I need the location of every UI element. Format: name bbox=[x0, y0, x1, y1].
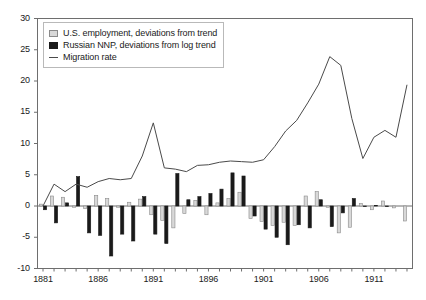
bar-russian-nnp bbox=[231, 173, 234, 206]
bar-us-employment bbox=[161, 206, 164, 220]
bar-us-employment bbox=[194, 200, 197, 206]
bar-us-employment bbox=[106, 199, 109, 207]
bar-us-employment bbox=[392, 206, 395, 208]
bar-russian-nnp bbox=[99, 206, 102, 235]
bar-us-employment bbox=[260, 206, 263, 222]
bar-us-employment bbox=[183, 206, 186, 214]
bar-us-employment bbox=[282, 206, 285, 222]
bar-us-employment bbox=[61, 197, 64, 206]
bar-russian-nnp bbox=[132, 206, 135, 241]
bar-russian-nnp bbox=[43, 206, 46, 210]
bar-us-employment bbox=[95, 195, 98, 206]
y-axis-tick-label: 30 bbox=[4, 13, 30, 23]
bar-russian-nnp bbox=[65, 203, 68, 206]
bar-us-employment bbox=[128, 202, 131, 206]
x-axis-tick-label: 1881 bbox=[26, 274, 60, 284]
x-axis-tick-label: 1896 bbox=[191, 274, 225, 284]
bar-russian-nnp bbox=[242, 176, 245, 206]
bar-russian-nnp bbox=[121, 206, 124, 234]
bar-russian-nnp bbox=[220, 189, 223, 206]
bar-russian-nnp bbox=[198, 197, 201, 206]
bar-us-employment bbox=[150, 206, 153, 215]
bar-russian-nnp bbox=[363, 206, 366, 207]
legend-swatch-migration-rate-icon bbox=[49, 53, 58, 62]
bar-us-employment bbox=[84, 206, 87, 209]
bar-russian-nnp bbox=[330, 206, 333, 227]
bar-russian-nnp bbox=[385, 206, 388, 207]
bar-us-employment bbox=[139, 199, 142, 206]
bar-us-employment bbox=[403, 206, 406, 221]
bar-us-employment bbox=[326, 206, 329, 207]
chart-container: U.S. employment, deviations from trend R… bbox=[0, 0, 426, 300]
bar-us-employment bbox=[271, 206, 274, 225]
bar-us-employment bbox=[216, 203, 219, 206]
legend-item-migration-rate: Migration rate bbox=[49, 51, 217, 63]
line-migration-rate bbox=[43, 57, 407, 206]
bar-russian-nnp bbox=[264, 206, 267, 229]
bar-us-employment bbox=[117, 206, 120, 207]
bar-russian-nnp bbox=[187, 200, 190, 206]
bar-russian-nnp bbox=[374, 205, 377, 206]
y-axis-tick-label: 15 bbox=[4, 106, 30, 116]
x-axis-tick-label: 1911 bbox=[357, 274, 391, 284]
legend-label-us-employment: U.S. employment, deviations from trend bbox=[63, 28, 217, 38]
legend-swatch-us-employment-icon bbox=[49, 30, 58, 37]
x-axis-tick-label: 1886 bbox=[81, 274, 115, 284]
bar-russian-nnp bbox=[341, 206, 344, 213]
bar-us-employment bbox=[315, 192, 318, 206]
bar-us-employment bbox=[73, 206, 76, 207]
bar-russian-nnp bbox=[253, 206, 256, 216]
bar-russian-nnp bbox=[286, 206, 289, 245]
y-axis-tick-label: 10 bbox=[4, 138, 30, 148]
y-axis-tick-label: 25 bbox=[4, 44, 30, 54]
bar-us-employment bbox=[50, 196, 53, 206]
legend-item-us-employment: U.S. employment, deviations from trend bbox=[49, 27, 217, 39]
y-axis-tick-label: -10 bbox=[4, 263, 30, 273]
bar-us-employment bbox=[205, 206, 208, 215]
x-axis-tick-label: 1901 bbox=[247, 274, 281, 284]
bar-us-employment bbox=[39, 204, 42, 206]
legend-item-russian-nnp: Russian NNP, deviations from log trend bbox=[49, 39, 217, 51]
bar-us-employment bbox=[370, 206, 373, 210]
bar-us-employment bbox=[249, 206, 252, 219]
x-axis-tick-label: 1891 bbox=[136, 274, 170, 284]
bar-russian-nnp bbox=[88, 206, 91, 233]
bar-russian-nnp bbox=[319, 200, 322, 206]
bar-us-employment bbox=[381, 201, 384, 206]
bar-us-employment bbox=[304, 196, 307, 206]
bar-russian-nnp bbox=[54, 206, 57, 223]
y-axis-tick-label: 20 bbox=[4, 75, 30, 85]
bar-us-employment bbox=[337, 206, 340, 233]
chart-legend: U.S. employment, deviations from trend R… bbox=[43, 22, 224, 68]
bar-russian-nnp bbox=[110, 206, 113, 256]
bar-russian-nnp bbox=[352, 199, 355, 207]
bar-us-employment bbox=[172, 206, 175, 228]
bar-russian-nnp bbox=[165, 206, 168, 244]
bar-russian-nnp bbox=[297, 206, 300, 225]
y-axis-tick-label: 0 bbox=[4, 200, 30, 210]
legend-label-russian-nnp: Russian NNP, deviations from log trend bbox=[63, 40, 216, 50]
y-axis-tick-label: 5 bbox=[4, 169, 30, 179]
bar-us-employment bbox=[227, 199, 230, 207]
bar-russian-nnp bbox=[308, 206, 311, 228]
bar-us-employment bbox=[238, 192, 241, 206]
x-axis-tick-label: 1906 bbox=[302, 274, 336, 284]
bar-russian-nnp bbox=[275, 206, 278, 237]
legend-label-migration-rate: Migration rate bbox=[63, 52, 117, 62]
bar-russian-nnp bbox=[176, 174, 179, 207]
bar-us-employment bbox=[359, 204, 362, 207]
bar-russian-nnp bbox=[154, 206, 157, 234]
bar-russian-nnp bbox=[77, 177, 80, 206]
bar-russian-nnp bbox=[143, 197, 146, 206]
bar-us-employment bbox=[293, 206, 296, 225]
legend-swatch-russian-nnp-icon bbox=[49, 42, 58, 49]
bar-us-employment bbox=[348, 206, 351, 227]
bar-russian-nnp bbox=[209, 194, 212, 207]
y-axis-tick-label: -5 bbox=[4, 231, 30, 241]
